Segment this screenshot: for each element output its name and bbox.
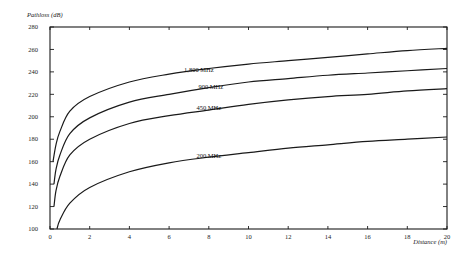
curve-200-mhz	[57, 137, 447, 229]
x-tick-label: 4	[128, 233, 132, 240]
x-tick-label: 0	[48, 233, 51, 240]
y-axis-title: Pathloss (dB)	[26, 11, 63, 19]
x-tick-label: 10	[245, 233, 252, 240]
x-tick-label: 16	[364, 233, 371, 240]
curve-450-mhz	[54, 89, 447, 207]
y-tick-label: 260	[28, 46, 38, 53]
x-tick-label: 12	[285, 233, 292, 240]
plot-frame	[50, 27, 447, 229]
x-tick-label: 2	[88, 233, 91, 240]
curve-label: 1,800 MHz	[184, 66, 214, 73]
y-tick-label: 180	[28, 135, 38, 142]
curve-label: 200 MHz	[196, 152, 221, 159]
y-tick-label: 240	[28, 68, 38, 75]
x-axis-title: Distance (m)	[412, 238, 447, 246]
y-tick-label: 220	[28, 91, 38, 98]
curve-900-mhz	[54, 69, 447, 185]
y-tick-label: 160	[28, 158, 38, 165]
x-tick-label: 14	[325, 233, 332, 240]
y-tick-label: 200	[28, 113, 38, 120]
curves-layer	[53, 48, 447, 229]
ticks-layer: 0246810121416182010012014016018020022024…	[28, 23, 450, 240]
pathloss-chart: 0246810121416182010012014016018020022024…	[0, 0, 475, 257]
y-tick-label: 280	[28, 23, 38, 30]
curve-label: 900 MHz	[198, 83, 223, 90]
x-tick-label: 18	[404, 233, 411, 240]
x-tick-label: 6	[167, 233, 171, 240]
y-tick-label: 120	[28, 203, 38, 210]
curve-label: 450 MHz	[196, 104, 221, 111]
y-tick-label: 140	[28, 180, 38, 187]
x-tick-label: 8	[207, 233, 210, 240]
y-tick-label: 100	[28, 225, 38, 232]
curve-1-800-mhz	[53, 48, 447, 161]
